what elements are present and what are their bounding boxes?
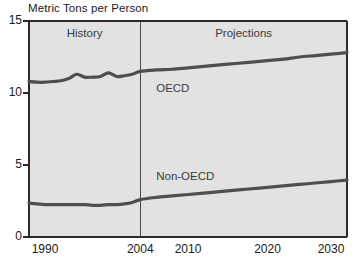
x-axis-label-2020: 2020 <box>254 242 281 256</box>
y-axis-label-5: 5 <box>2 157 22 171</box>
y-axis-label-15: 15 <box>2 13 22 27</box>
series-label-oecd: OECD <box>156 82 189 94</box>
x-axis-label-2030: 2030 <box>318 242 345 256</box>
x-axis-label-1990: 1990 <box>32 242 59 256</box>
x-axis-label-2010: 2010 <box>175 242 202 256</box>
axis-ticks <box>23 21 29 237</box>
y-axis-label-0: 0 <box>2 229 22 243</box>
x-axis-label-2004: 2004 <box>127 242 154 256</box>
region-label-history: History <box>67 27 103 39</box>
series-label-non-oecd: Non-OECD <box>156 170 214 182</box>
region-label-projections: Projections <box>215 27 272 39</box>
y-axis-label-10: 10 <box>2 85 22 99</box>
chart-plot-svg <box>0 0 357 266</box>
chart-container: Metric Tons per Person 051015 1990200420… <box>0 0 357 266</box>
